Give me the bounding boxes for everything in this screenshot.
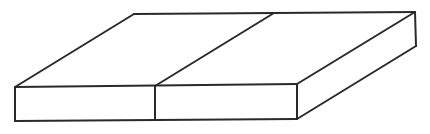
back-right-vertical-edge bbox=[415, 12, 416, 46]
slab-diagram bbox=[0, 0, 430, 134]
